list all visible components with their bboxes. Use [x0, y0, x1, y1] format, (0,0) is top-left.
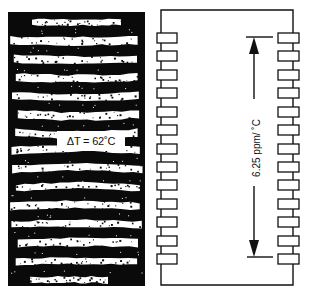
- pin-left: [157, 180, 177, 190]
- pin-right: [278, 254, 299, 264]
- up-arrow-head: [249, 37, 259, 54]
- pin-left: [157, 70, 177, 80]
- pin-left: [157, 107, 177, 117]
- left-pin-row: [157, 33, 177, 264]
- pin-right: [278, 144, 299, 154]
- pin-left: [157, 33, 177, 43]
- package-outline: [161, 10, 293, 285]
- pin-right: [278, 51, 299, 61]
- pin-left: [157, 125, 177, 135]
- pin-left: [157, 144, 177, 154]
- right-pin-row: [278, 33, 299, 264]
- tce-dimension-label: 6.25 ppm/ ˚C: [251, 119, 262, 177]
- pin-right: [278, 88, 299, 98]
- pin-left: [157, 199, 177, 209]
- pin-right: [278, 70, 299, 80]
- package-diagram: [0, 0, 309, 293]
- pin-right: [278, 236, 299, 246]
- pin-left: [157, 217, 177, 227]
- pin-right: [278, 180, 299, 190]
- pin-left: [157, 254, 177, 264]
- pin-left: [157, 162, 177, 172]
- pin-right: [278, 162, 299, 172]
- down-arrow-head: [249, 240, 259, 257]
- pin-right: [278, 33, 299, 43]
- pin-right: [278, 107, 299, 117]
- pin-left: [157, 51, 177, 61]
- pin-left: [157, 88, 177, 98]
- pin-right: [278, 125, 299, 135]
- pin-right: [278, 217, 299, 227]
- pin-right: [278, 199, 299, 209]
- pin-left: [157, 236, 177, 246]
